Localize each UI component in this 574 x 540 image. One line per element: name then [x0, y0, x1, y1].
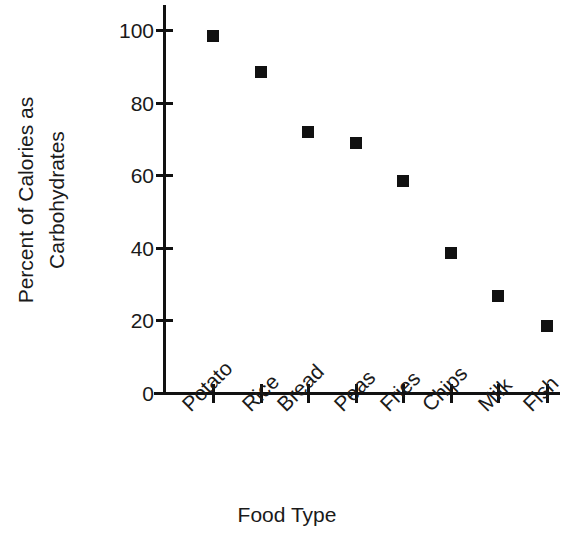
data-point-fries	[397, 175, 409, 187]
plot-area	[0, 0, 574, 540]
y-axis-line	[163, 5, 166, 395]
scatter-chart: Percent of Calories as Carbohydrates 100…	[0, 0, 574, 540]
x-axis-title: Food Type	[0, 503, 574, 527]
data-point-chips	[445, 247, 457, 259]
y-axis-tick-80	[156, 102, 173, 105]
y-axis-tick-20	[156, 319, 173, 322]
data-point-bread	[302, 126, 314, 138]
y-axis-tick-60	[156, 174, 173, 177]
data-point-rice	[255, 66, 267, 78]
data-point-milk	[492, 290, 504, 302]
data-point-potato	[207, 30, 219, 42]
y-axis-tick-40	[156, 247, 173, 250]
y-axis-tick-0	[156, 392, 173, 395]
data-point-fish	[541, 320, 553, 332]
data-point-peas	[350, 137, 362, 149]
y-axis-tick-100	[156, 29, 173, 32]
